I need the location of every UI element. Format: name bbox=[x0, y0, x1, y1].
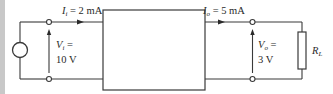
output-current-value: = 5 mA bbox=[213, 5, 245, 16]
input-terminal-top bbox=[47, 20, 52, 25]
input-current-arrow-icon bbox=[77, 20, 84, 25]
output-terminal-bottom bbox=[250, 77, 255, 82]
input-current-value: = 2 mA bbox=[70, 5, 102, 16]
input-current-subscript: i bbox=[66, 10, 68, 18]
load-resistor-label: RL bbox=[312, 46, 322, 58]
voltage-source-icon bbox=[13, 43, 28, 58]
output-terminal-top bbox=[250, 20, 255, 25]
input-voltage-subscript: i bbox=[62, 44, 64, 52]
output-voltage-arrow-icon bbox=[250, 29, 254, 35]
input-terminal-bottom bbox=[47, 77, 52, 82]
two-port-network-box bbox=[103, 10, 205, 90]
circuit-diagram bbox=[0, 0, 333, 94]
load-resistor-subscript: L bbox=[318, 50, 322, 58]
output-current-subscript: o bbox=[207, 10, 211, 18]
output-voltage-subscript: o bbox=[264, 44, 268, 52]
input-current-label: Ii = 2 mA bbox=[62, 6, 102, 18]
output-voltage-label: Vo = bbox=[258, 40, 276, 52]
input-voltage-label: Vi = bbox=[56, 40, 73, 52]
input-voltage-eq: = bbox=[67, 39, 73, 50]
output-voltage-value: 3 V bbox=[258, 55, 273, 66]
output-current-arrow-icon bbox=[218, 20, 225, 25]
output-voltage-eq: = bbox=[271, 39, 277, 50]
output-current-label: Io = 5 mA bbox=[203, 6, 245, 18]
resistor-icon bbox=[298, 32, 306, 69]
input-voltage-arrow-icon bbox=[47, 29, 51, 35]
input-voltage-value: 10 V bbox=[56, 55, 77, 66]
